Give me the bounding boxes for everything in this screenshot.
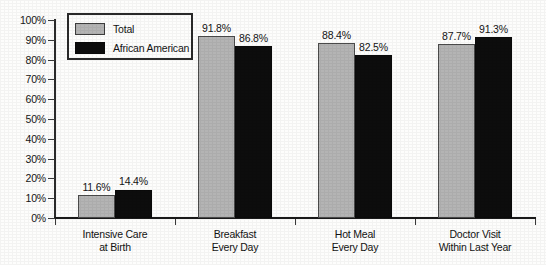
y-axis-tick-label: 60% <box>2 94 46 104</box>
x-axis-category-label: Doctor VisitWithin Last Year <box>415 228 535 253</box>
bar-aa-2 <box>355 55 392 218</box>
legend-label-total: Total <box>113 24 134 35</box>
y-axis-tick-label: 70% <box>2 74 46 84</box>
bar-value-label: 14.4% <box>114 176 154 187</box>
x-axis-category-label: BreakfastEvery Day <box>175 228 295 253</box>
y-axis-tick <box>48 99 55 100</box>
y-axis-tick <box>48 79 55 80</box>
y-axis-tick <box>48 218 55 219</box>
category-label-line: Every Day <box>175 241 295 254</box>
category-label-line: Intensive Care <box>55 228 175 241</box>
x-axis-tick <box>535 219 536 225</box>
bar-value-label: 11.6% <box>77 182 117 193</box>
bar-total-3 <box>438 44 475 218</box>
bar-value-label: 91.8% <box>197 23 237 34</box>
legend-item-african-american: African American <box>75 39 185 57</box>
legend-swatch-african-american-icon <box>75 42 105 54</box>
y-axis-tick-label: 40% <box>2 134 46 144</box>
legend-item-total: Total <box>75 20 185 38</box>
category-label-line: at Birth <box>55 241 175 254</box>
x-axis-tick <box>55 219 56 225</box>
x-axis-category-label: Hot MealEvery Day <box>295 228 415 253</box>
y-axis-tick-label: 0% <box>2 213 46 223</box>
x-axis-category-label: Intensive Careat Birth <box>55 228 175 253</box>
y-axis-tick <box>48 40 55 41</box>
bar-total-2 <box>318 43 355 218</box>
legend-swatch-total-icon <box>75 23 105 35</box>
x-axis-tick <box>295 219 296 225</box>
category-label-line: Hot Meal <box>295 228 415 241</box>
y-axis-tick-label: 10% <box>2 193 46 203</box>
legend: Total African American <box>67 13 193 60</box>
y-axis-tick <box>48 60 55 61</box>
x-axis-tick <box>415 219 416 225</box>
bar-aa-3 <box>475 37 512 218</box>
y-axis-tick <box>48 178 55 179</box>
y-axis-tick-label: 30% <box>2 154 46 164</box>
y-axis-tick <box>48 119 55 120</box>
bar-aa-1 <box>235 46 272 218</box>
category-label-line: Doctor Visit <box>415 228 535 241</box>
bar-total-1 <box>198 36 235 218</box>
bar-value-label: 86.8% <box>234 33 274 44</box>
y-axis-tick <box>48 159 55 160</box>
y-axis-tick <box>48 20 55 21</box>
category-label-line: Every Day <box>295 241 415 254</box>
bar-value-label: 88.4% <box>317 30 357 41</box>
y-axis-tick-label: 20% <box>2 173 46 183</box>
y-axis-tick-label: 100% <box>2 15 46 25</box>
y-axis-tick-label: 90% <box>2 35 46 45</box>
bar-value-label: 87.7% <box>437 31 477 42</box>
bar-value-label: 82.5% <box>354 42 394 53</box>
bar-chart: 0%10%20%30%40%50%60%70%80%90%100% 11.6%1… <box>0 0 546 265</box>
y-axis-tick <box>48 198 55 199</box>
bar-total-0 <box>78 195 115 218</box>
category-label-line: Within Last Year <box>415 241 535 254</box>
legend-label-african-american: African American <box>113 43 189 54</box>
bar-aa-0 <box>115 190 152 219</box>
y-axis-tick <box>48 139 55 140</box>
y-axis-tick-label: 80% <box>2 55 46 65</box>
bar-value-label: 91.3% <box>474 24 514 35</box>
x-axis-tick <box>175 219 176 225</box>
y-axis-tick-label: 50% <box>2 114 46 124</box>
category-label-line: Breakfast <box>175 228 295 241</box>
